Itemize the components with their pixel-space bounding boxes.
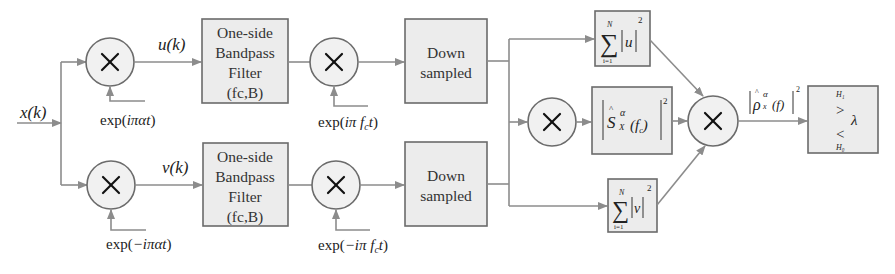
downsample-line: Down — [427, 44, 465, 61]
scf-magnitude-block: S ^ α X (fc) 2 — [592, 87, 672, 154]
filter-line: One-side — [217, 148, 273, 165]
upper-mixer2-ref-wire — [334, 87, 368, 106]
upper-mixer1 — [86, 38, 134, 86]
filter-line: (fc,B) — [227, 208, 264, 226]
hypothesis-h0: H₀ — [835, 143, 845, 152]
filter-line: Filter — [228, 64, 262, 81]
filter-line: One-side — [217, 24, 273, 41]
output-label: ρ ^ α x (f) 2 — [750, 85, 800, 114]
sum-lower-limit: i=1 — [603, 57, 613, 65]
upper-downsample-block: Down sampled — [405, 19, 487, 103]
energy-var: u — [625, 34, 633, 50]
scf-sub: X — [618, 122, 625, 132]
combine-mixer — [688, 96, 738, 146]
filter-line: Bandpass — [215, 168, 274, 185]
downsample-line: Down — [427, 167, 465, 184]
upper-mixer1-ref-label: exp(iπαt) — [100, 112, 155, 129]
upper-signal-label: u(k) — [158, 35, 186, 54]
less-than-icon: < — [836, 126, 844, 142]
lower-mixer2-ref-label: exp(−iπ fct) — [318, 237, 388, 255]
filter-line: Filter — [228, 188, 262, 205]
rho-arg: (f) — [772, 97, 784, 112]
energy-v-block: N ∑ i=1 v 2 — [608, 179, 657, 232]
filter-line: Bandpass — [215, 44, 274, 61]
input-signal: x(k) — [17, 103, 61, 123]
sum-upper-limit: N — [606, 20, 613, 29]
scf-sup: α — [620, 107, 626, 118]
upper-mixer2 — [310, 38, 358, 86]
threshold-lambda: λ — [850, 112, 858, 128]
scf-base: S — [607, 113, 616, 132]
sigma-icon: ∑ — [600, 29, 619, 58]
rho-power: 2 — [796, 85, 800, 94]
hypothesis-h1: H₁ — [835, 90, 845, 99]
scf-power: 2 — [663, 96, 668, 106]
greater-than-icon: > — [836, 102, 844, 118]
block-diagram: x(k) exp(iπαt) u(k) One-side Bandpass Fi… — [0, 0, 895, 274]
rho-base: ρ — [752, 96, 761, 114]
input-label: x(k) — [19, 103, 47, 122]
lower-signal-label: v(k) — [162, 158, 189, 177]
sum-lower-limit: i=1 — [614, 223, 624, 231]
downsample-line: sampled — [420, 64, 472, 81]
sigma-icon: ∑ — [612, 197, 629, 224]
lower-mixer2 — [312, 161, 360, 209]
lower-mixer2-ref-wire — [336, 210, 370, 230]
lower-downsample-block: Down sampled — [405, 142, 487, 226]
cross-mixer — [528, 98, 576, 146]
downsample-line: sampled — [420, 187, 472, 204]
energy-var: v — [634, 201, 641, 216]
upper-filter-block: One-side Bandpass Filter (fc,B) — [202, 19, 288, 103]
energy-power: 2 — [638, 15, 643, 25]
lower-mixer1-ref-wire — [111, 210, 146, 230]
filter-line: (fc,B) — [227, 84, 264, 102]
scf-arg: (fc) — [630, 117, 648, 135]
hat-mark: ^ — [755, 88, 759, 97]
lower-filter-block: One-side Bandpass Filter (fc,B) — [203, 143, 288, 226]
energy-power: 2 — [647, 183, 652, 193]
energy-u-block: N ∑ i=1 u 2 — [595, 11, 650, 66]
sum-upper-limit: N — [618, 188, 625, 197]
upper-mixer1-ref-wire — [110, 87, 145, 101]
lower-mixer1 — [87, 161, 135, 209]
lower-mixer1-ref-label: exp(−iπαt) — [106, 236, 172, 253]
decision-block: H₁ > λ < H₀ — [808, 86, 878, 153]
rho-sub: x — [762, 102, 767, 111]
energy-v-to-combine-wire — [657, 146, 705, 205]
rho-sup: α — [763, 89, 768, 99]
upper-mixer2-ref-label: exp(iπ fct) — [318, 114, 378, 132]
